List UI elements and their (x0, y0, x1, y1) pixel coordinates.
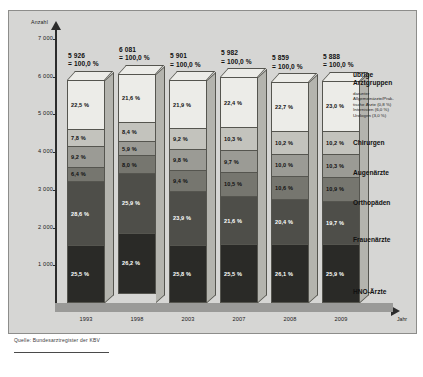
bar-segment[interactable]: 25,9 % (118, 174, 156, 233)
bar-segment[interactable]: 25,5 % (67, 246, 105, 303)
bar-segment-label: 9,2 % (173, 136, 188, 142)
bar-segment-label: 7,8 % (71, 135, 86, 141)
bar-segment[interactable]: 10,3 % (220, 128, 258, 151)
bar-segment[interactable]: 20,4 % (271, 200, 309, 245)
bar-segment-label: 22,4 % (224, 100, 242, 106)
bar-segment[interactable]: 22,4 % (220, 77, 258, 128)
bar-segment[interactable]: 8,0 % (118, 156, 156, 174)
x-axis-title: Jahr (397, 316, 407, 322)
bar-column[interactable]: 22,5 %7,8 %9,2 %6,4 %28,6 %25,5 % (67, 80, 105, 303)
bar-column[interactable]: 21,9 %9,2 %9,8 %9,4 %23,9 %25,8 % (169, 80, 207, 303)
y-tick-mark (53, 114, 57, 115)
legend-sub-items: Allgemeinärzte/Prak-tische Ärzte (0,8 %)… (353, 96, 415, 118)
bar-segment-label: 10,5 % (224, 181, 242, 187)
bar-segment[interactable]: 9,2 % (169, 129, 207, 149)
chart-floor (55, 303, 393, 312)
bar-segment[interactable]: 28,6 % (67, 182, 105, 246)
footer-rule (14, 352, 109, 353)
bar-segment-label: 26,1 % (275, 271, 293, 277)
bar-segment[interactable]: 10,2 % (271, 132, 309, 155)
bar-segment-label: 8,4 % (122, 129, 137, 135)
bar-segment-label: 10,9 % (326, 186, 344, 192)
bar-column[interactable]: 22,4 %10,3 %9,7 %10,5 %21,6 %25,5 % (220, 77, 258, 303)
y-tick-mark (53, 265, 57, 266)
bar-side-face (309, 74, 318, 303)
bar-segment-label: 6,4 % (71, 171, 86, 177)
bar-segment-label: 25,9 % (122, 200, 140, 206)
bar-segment[interactable]: 23,9 % (169, 192, 207, 245)
bar-segment-label: 9,2 % (71, 154, 86, 160)
legend-item[interactable]: Augenärzte (353, 169, 389, 176)
legend-item[interactable]: Orthopäden (353, 199, 390, 206)
bar-segment[interactable]: 7,8 % (67, 130, 105, 147)
legend-item[interactable]: Chirurgen (353, 139, 385, 146)
legend-item[interactable]: Frauenärzte (353, 236, 390, 243)
legend-group-title-line2: Arztgruppen (353, 79, 415, 87)
bar-segment-label: 8,0 % (122, 162, 137, 168)
bar-side-face (156, 66, 165, 303)
y-tick-mark (53, 190, 57, 191)
bar-segment[interactable]: 22,7 % (271, 82, 309, 132)
bar-segment[interactable]: 26,1 % (271, 245, 309, 303)
y-axis-title: Anzahl (31, 19, 48, 25)
bar-segment[interactable]: 9,8 % (169, 150, 207, 172)
bar-segment-label: 22,7 % (275, 104, 293, 110)
bar-segment-label: 10,2 % (275, 140, 293, 146)
bar-segment-label: 23,0 % (326, 103, 344, 109)
source-note: Quelle: Bundesarztregister der KBV (14, 337, 100, 343)
y-tick-text: 6 000 (9, 73, 53, 79)
y-axis-arrow (51, 21, 61, 30)
bar-segment-label: 9,7 % (224, 159, 239, 165)
bar-segment-label: 25,8 % (173, 271, 191, 277)
bar-segment[interactable]: 10,5 % (220, 173, 258, 197)
bar-segment[interactable]: 25,8 % (169, 246, 207, 303)
y-tick-text: 4 000 (9, 148, 53, 154)
bar-segment[interactable]: 22,5 % (67, 80, 105, 130)
x-tick-label: 2003 (163, 316, 213, 322)
y-tick-text: 1 000 (9, 261, 53, 267)
bar-segment[interactable]: 21,6 % (220, 197, 258, 246)
bar-segment[interactable]: 10,0 % (271, 155, 309, 177)
bar-segment-label: 5,9 % (122, 146, 137, 152)
bar-column[interactable]: 22,7 %10,2 %10,0 %10,6 %20,4 %26,1 % (271, 82, 309, 303)
bar-segment-label: 21,9 % (173, 102, 191, 108)
y-tick-text: 2 000 (9, 224, 53, 230)
y-tick-mark (53, 77, 57, 78)
bar-segment-label: 23,9 % (173, 215, 191, 221)
bar-segment[interactable]: 10,6 % (271, 177, 309, 200)
bar-column[interactable]: 21,6 %8,4 %5,9 %8,0 %25,9 %26,2 % (118, 74, 156, 303)
x-tick-label: 1998 (112, 316, 162, 322)
legend-item[interactable]: HNO-Ärzte (353, 288, 386, 295)
bar-segment[interactable]: 6,4 % (67, 168, 105, 182)
bar-segment[interactable]: 9,2 % (67, 147, 105, 168)
y-tick-mark (53, 152, 57, 153)
bar-segment-label: 10,0 % (275, 162, 293, 168)
bar-segment[interactable]: 21,9 % (169, 80, 207, 129)
bar-segment[interactable]: 9,7 % (220, 151, 258, 173)
bar-segment[interactable]: 25,5 % (220, 245, 258, 303)
bar-segment-label: 22,5 % (71, 102, 89, 108)
x-tick-label: 2007 (214, 316, 264, 322)
bar-segment-label: 10,3 % (224, 136, 242, 142)
bar-segment[interactable]: 5,9 % (118, 142, 156, 156)
bar-segment-label: 21,6 % (224, 218, 242, 224)
bar-segment-label: 9,8 % (173, 157, 188, 163)
x-tick-label: 1993 (61, 316, 111, 322)
bar-segment[interactable]: 21,6 % (118, 74, 156, 124)
bar-segment-label: 9,4 % (173, 178, 188, 184)
y-tick-text: 7 000 (9, 35, 53, 41)
bar-segment[interactable]: 8,4 % (118, 123, 156, 142)
bar-segment-label: 25,9 % (326, 271, 344, 277)
legend-primary-group: übrige Arztgruppen darunter Allgemeinärz… (353, 71, 415, 118)
y-tick-mark (53, 39, 57, 40)
bar-segment-label: 10,3 % (326, 163, 344, 169)
bar-segment[interactable]: 26,2 % (118, 234, 156, 294)
bar-segment[interactable]: 9,4 % (169, 171, 207, 192)
bar-side-face (105, 71, 114, 303)
bar-side-face (258, 69, 267, 303)
bar-segment-label: 21,6 % (122, 95, 140, 101)
bar-segment-label: 20,4 % (275, 219, 293, 225)
x-tick-label: 2009 (316, 316, 366, 322)
bar-side-face (207, 72, 216, 303)
bar-segment-label: 10,6 % (275, 185, 293, 191)
